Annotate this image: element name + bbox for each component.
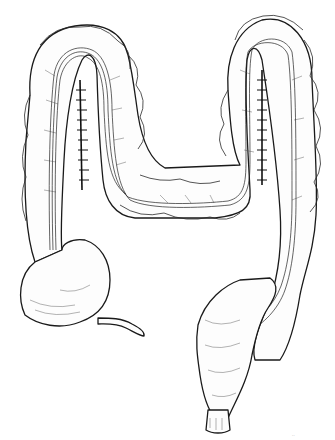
artist-signature: ·· — [292, 432, 295, 438]
left-suture-line — [76, 80, 89, 190]
colon-illustration — [0, 0, 335, 440]
appendix — [98, 318, 144, 336]
rectum — [206, 410, 230, 433]
